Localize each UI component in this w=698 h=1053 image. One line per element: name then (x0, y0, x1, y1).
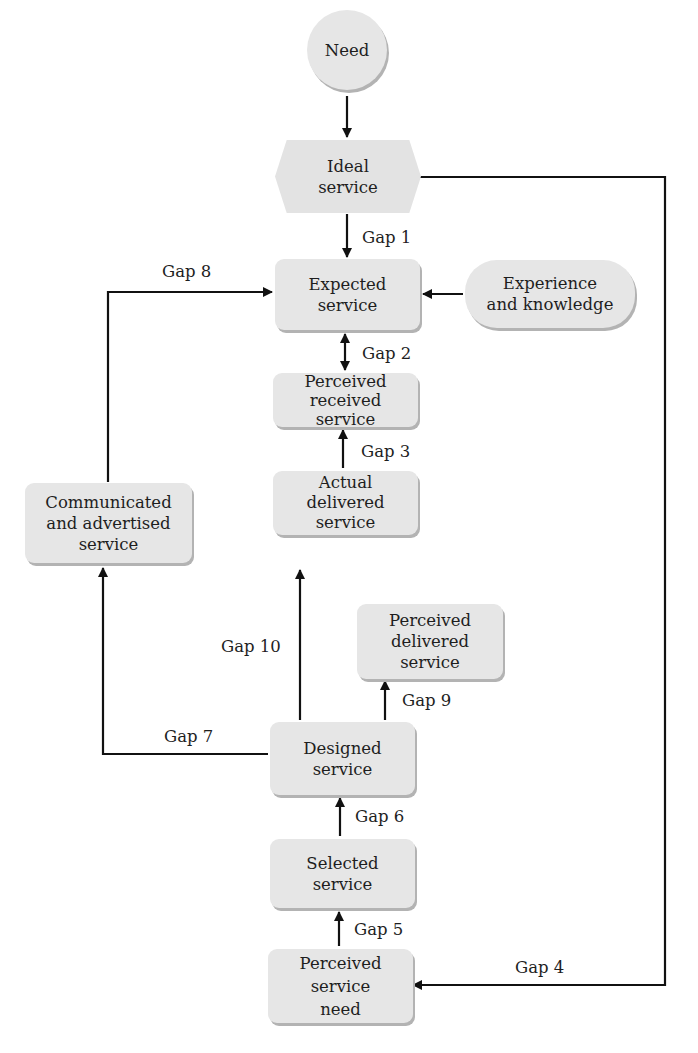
label-gap9: Gap 9 (402, 691, 451, 710)
node-designed-service: Designed service (270, 722, 415, 795)
node-experience-knowledge: Experience and knowledge (465, 260, 635, 328)
node-perceived-service-need: Perceived service need (268, 949, 413, 1023)
node-ideal-service: Ideal service (275, 140, 421, 213)
label-gap2: Gap 2 (362, 344, 411, 363)
label-gap10: Gap 10 (221, 637, 281, 656)
label-gap4: Gap 4 (515, 958, 564, 977)
label-gap8: Gap 8 (162, 262, 211, 281)
label-gap3: Gap 3 (361, 442, 410, 461)
service-gap-diagram: Need Ideal service Expected service Expe… (0, 0, 698, 1053)
label-gap6: Gap 6 (355, 807, 404, 826)
node-expected-service: Expected service (275, 259, 420, 330)
node-perceived-received-service: Perceived received service (273, 373, 418, 427)
label-gap5: Gap 5 (354, 920, 403, 939)
node-communicated-advertised-service: Communicated and advertised service (25, 483, 192, 563)
node-need: Need (307, 10, 387, 90)
label-gap7: Gap 7 (164, 727, 213, 746)
node-selected-service: Selected service (270, 839, 415, 908)
label-gap1: Gap 1 (362, 228, 411, 247)
node-actual-delivered-service: Actual delivered service (273, 471, 418, 535)
arrow-gap8 (108, 292, 272, 482)
node-perceived-delivered-service: Perceived delivered service (357, 604, 503, 679)
